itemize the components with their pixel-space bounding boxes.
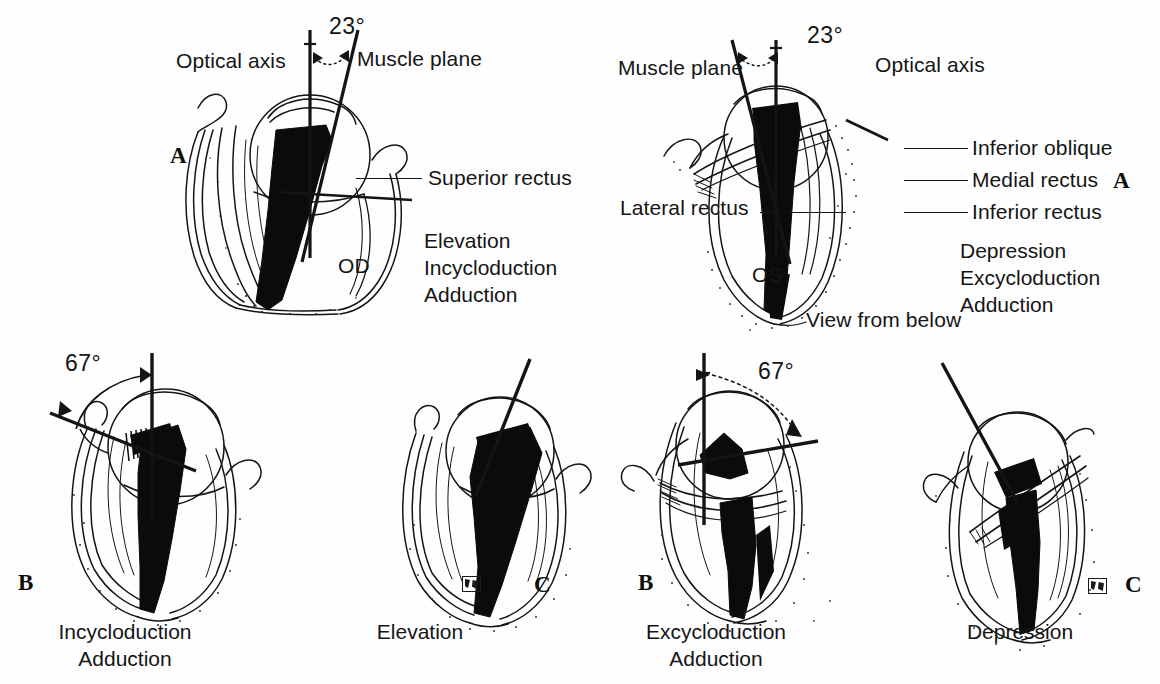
actions-top-left: Elevation Incycloduction Adduction xyxy=(424,227,557,308)
caption-bottom-1: Incycloduction Adduction xyxy=(0,618,250,672)
label-inferior-rectus: Inferior rectus xyxy=(972,199,1102,225)
label-os: OS xyxy=(752,262,783,288)
action-line: Adduction xyxy=(424,281,557,308)
artist-signature-stamp-2 xyxy=(1088,578,1107,594)
label-view-from-below: View from below xyxy=(806,307,961,333)
action-line: Depression xyxy=(960,237,1100,264)
caption-line: Adduction xyxy=(0,645,250,672)
caption-line: Incycloduction xyxy=(0,618,250,645)
action-line: Elevation xyxy=(424,227,557,254)
panel-letter-bottom-2: C xyxy=(534,572,551,598)
caption-line: Elevation xyxy=(310,618,530,645)
leader-inferior-rectus xyxy=(904,212,968,213)
transverse-axis-left xyxy=(276,192,412,200)
leader-inferior-oblique xyxy=(904,148,968,149)
actions-top-right: Depression Excycloduction Adduction xyxy=(960,237,1100,318)
panel-letter-bottom-4: C xyxy=(1125,572,1142,598)
label-optical-axis-left: Optical axis xyxy=(176,48,286,74)
label-angle-67-b3: 67° xyxy=(758,358,794,384)
leader-superior-rectus xyxy=(356,178,422,179)
label-muscle-plane-right: Muscle plane xyxy=(618,55,743,81)
label-optical-axis-right: Optical axis xyxy=(875,52,985,78)
leader-medial-rectus xyxy=(904,180,968,181)
caption-line: Adduction xyxy=(596,645,836,672)
label-muscle-plane-left: Muscle plane xyxy=(357,46,482,72)
tilted-axis-b3 xyxy=(678,441,818,465)
label-od: OD xyxy=(338,253,370,279)
label-angle-67-b1: 67° xyxy=(65,350,101,376)
panel-letter-top-left: A xyxy=(170,143,187,169)
axis-lines-bottom-1 xyxy=(0,345,300,645)
label-angle-23-right: 23° xyxy=(807,22,843,48)
label-medial-rectus: Medial rectus xyxy=(972,167,1098,193)
figure-canvas: A Optical axis 23° Muscle plane Superior… xyxy=(0,0,1160,684)
action-line: Excycloduction xyxy=(960,264,1100,291)
label-inferior-oblique: Inferior oblique xyxy=(972,135,1113,161)
panel-letter-top-right: A xyxy=(1113,168,1130,194)
tilted-axis-b4 xyxy=(942,363,1018,503)
label-angle-23-left: 23° xyxy=(329,13,365,39)
axis-lines-bottom-3 xyxy=(600,345,900,645)
tilted-axis-b2 xyxy=(476,359,530,495)
label-lateral-rectus: Lateral rectus xyxy=(620,195,749,221)
panel-letter-bottom-3: B xyxy=(638,570,653,596)
caption-line: Depression xyxy=(900,618,1140,645)
caption-bottom-2: Elevation xyxy=(310,618,530,645)
leader-lateral-rectus xyxy=(760,212,846,213)
axis-lines-bottom-4 xyxy=(900,345,1160,605)
label-superior-rectus: Superior rectus xyxy=(428,165,572,191)
panel-letter-bottom-1: B xyxy=(18,570,33,596)
artist-signature-stamp xyxy=(462,576,481,592)
caption-bottom-4: Depression xyxy=(900,618,1140,645)
action-line: Incycloduction xyxy=(424,254,557,281)
axis-lines-bottom-2 xyxy=(370,345,630,605)
action-line: Adduction xyxy=(960,291,1100,318)
tilted-axis-b1 xyxy=(50,413,196,471)
caption-line: Excycloduction xyxy=(596,618,836,645)
caption-bottom-3: Excycloduction Adduction xyxy=(596,618,836,672)
